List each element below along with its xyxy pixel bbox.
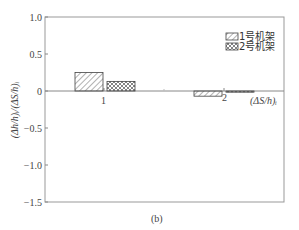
legend: 1号机架 2号机架 — [226, 30, 275, 52]
legend-swatch-series-2 — [226, 43, 238, 50]
y-axis: 1.00.50−0.5−1.0−1.5 — [24, 12, 48, 208]
y-tick-label: −1.0 — [24, 160, 42, 171]
y-tick-label: 0 — [37, 86, 42, 97]
bar-chart: 1.00.50−0.5−1.0−1.5 1 2 1号机架 2号机架 (ΔS/h)… — [0, 0, 299, 230]
bar-1-cat-1 — [75, 73, 103, 92]
x-tick-label-1: 1 — [101, 95, 106, 106]
y-axis-label: (Δh/h)ᵢ/(ΔS/h)ᵢ — [9, 81, 21, 138]
legend-label-series-2: 2号机架 — [239, 40, 275, 52]
x-axis-label: (ΔS/h)ᵢ — [250, 95, 277, 107]
y-tick-label: 0.5 — [30, 49, 43, 60]
y-tick-label: −0.5 — [24, 123, 42, 134]
y-tick-label: 1.0 — [30, 12, 43, 23]
legend-swatch-series-1 — [226, 33, 238, 40]
bars — [75, 73, 254, 97]
bar-2-cat-2 — [226, 91, 254, 92]
x-tick-label-2: 2 — [222, 92, 227, 103]
figure-caption: (b) — [151, 213, 163, 225]
y-tick-label: −1.5 — [24, 197, 42, 208]
bar-1-cat-2 — [194, 91, 222, 96]
bar-2-cat-1 — [107, 81, 135, 91]
